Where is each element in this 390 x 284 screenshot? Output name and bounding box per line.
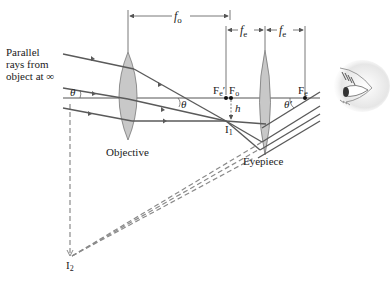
light-rays <box>63 54 320 158</box>
incoming-rays-line-2: rays from <box>6 58 54 70</box>
objective-lens <box>119 52 137 140</box>
image2-label: I2 <box>66 259 74 273</box>
telescope-diagram: fo fe fe <box>0 0 390 284</box>
focal-length-eyepiece-label-2: fe <box>279 23 286 39</box>
incoming-rays-label: Parallel rays from object at ∞ <box>6 46 54 82</box>
theta-mid-label: θ <box>181 98 187 110</box>
diagram-canvas: fo fe fe <box>0 0 390 284</box>
theta-arc-left <box>80 90 81 98</box>
theta-prime-label: θ′ <box>284 98 292 110</box>
focal-length-eyepiece-label-1: fe <box>240 23 247 39</box>
focal-point-fo <box>229 96 233 100</box>
theta-left-label: θ <box>70 86 76 98</box>
focal-length-objective-label: fo <box>174 9 182 25</box>
incoming-rays-line-3: object at ∞ <box>6 70 54 82</box>
eyepiece-label: Eyepiece <box>243 155 283 167</box>
fe-prime-label: Fe′ <box>213 84 225 98</box>
eye-icon <box>334 60 390 112</box>
theta-arc-mid <box>178 98 180 107</box>
focal-point-fe-prime <box>224 96 228 100</box>
height-label: h <box>235 102 241 114</box>
eyepiece-lens <box>260 50 271 155</box>
fo-label: Fo <box>229 84 239 98</box>
incoming-rays-line-1: Parallel <box>6 46 54 58</box>
objective-label: Objective <box>106 146 149 158</box>
fe-label: Fe <box>298 84 308 98</box>
